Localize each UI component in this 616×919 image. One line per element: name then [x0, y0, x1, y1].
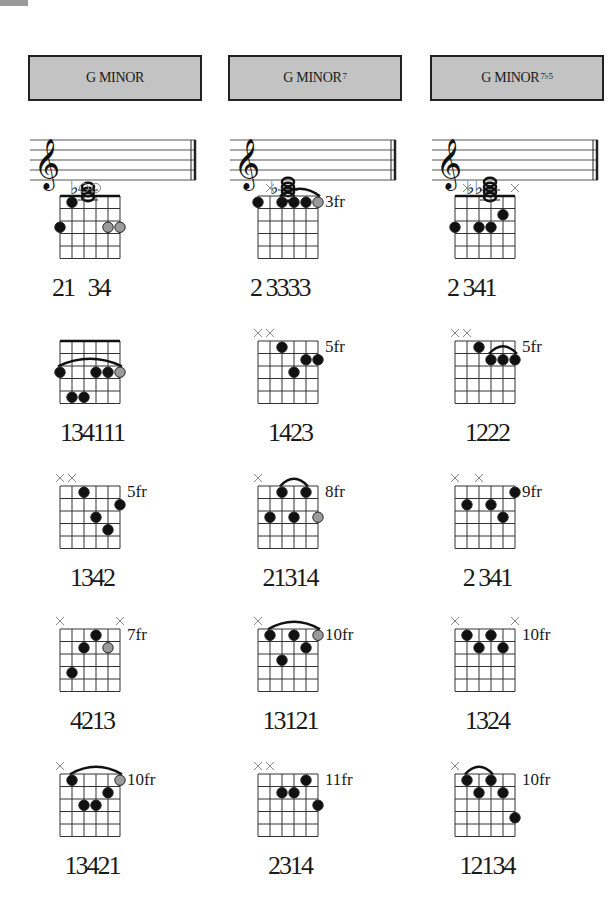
chord-diagram: 3fr2 3333: [228, 176, 358, 311]
finger-dot: [301, 775, 311, 785]
finger-dot: [253, 197, 263, 207]
fretboard-grid: [28, 321, 188, 421]
finger-dot: [313, 355, 323, 365]
finger-dot: [486, 775, 496, 785]
finger-dot: [486, 355, 496, 365]
finger-dot: [55, 222, 65, 232]
fret-position-label: 11fr: [325, 770, 353, 790]
open-string-icon: [92, 184, 101, 193]
muted-string-icon: [511, 617, 519, 625]
finger-dot: [498, 512, 508, 522]
chord-title-text: G MINOR: [283, 70, 341, 86]
finger-dot: [265, 630, 275, 640]
finger-dot: [450, 222, 460, 232]
finger-dot: [289, 630, 299, 640]
finger-dot: [289, 197, 299, 207]
finger-dot: [79, 392, 89, 402]
finger-dot: [462, 775, 472, 785]
muted-string-icon: [266, 184, 274, 192]
fingering-label: 21 34: [52, 273, 132, 303]
fretboard-grid: [28, 466, 188, 566]
chord-diagram: 11fr2314: [228, 754, 358, 889]
chord-title-text: G MINOR: [481, 70, 539, 86]
finger-dot: [91, 630, 101, 640]
fret-position-label: 5fr: [127, 482, 147, 502]
chord-diagram: 9fr2 341: [430, 466, 560, 601]
muted-string-icon: [463, 329, 471, 337]
corner-tab: [0, 0, 28, 6]
muted-string-icon: [475, 474, 483, 482]
chord-title-superscript: 7♭5: [540, 71, 552, 81]
finger-dot: [474, 788, 484, 798]
finger-dot: [498, 788, 508, 798]
root-note-dot: [115, 775, 125, 785]
finger-dot: [486, 222, 496, 232]
fret-position-label: 3fr: [325, 192, 345, 212]
fret-position-label: 5fr: [522, 337, 542, 357]
fingering-label: 13421: [52, 851, 132, 881]
chord-diagram: 2 341: [430, 176, 560, 311]
fingering-label: 2 341: [447, 563, 527, 593]
finger-dot: [289, 367, 299, 377]
finger-dot: [67, 668, 77, 678]
finger-dot: [265, 512, 275, 522]
finger-dot: [301, 643, 311, 653]
chord-diagram: 5fr1222: [430, 321, 560, 456]
chord-diagram: 10fr13121: [228, 609, 358, 744]
fingering-label: 1423: [250, 418, 330, 448]
finger-dot: [91, 800, 101, 810]
muted-string-icon: [451, 617, 459, 625]
finger-dot: [474, 643, 484, 653]
barre-arc: [268, 622, 320, 630]
finger-dot: [486, 630, 496, 640]
fretboard-grid: [228, 609, 388, 709]
chord-diagram: 21 34: [28, 176, 158, 311]
fretboard-grid: [430, 609, 590, 709]
root-note-dot: [103, 643, 113, 653]
finger-dot: [67, 197, 77, 207]
muted-string-icon: [56, 762, 64, 770]
muted-string-icon: [511, 184, 519, 192]
finger-dot: [498, 210, 508, 220]
fret-position-label: 10fr: [522, 625, 550, 645]
barre-arc: [58, 359, 122, 367]
chord-diagram: 134111: [28, 321, 158, 456]
finger-dot: [313, 800, 323, 810]
fretboard-grid: [28, 176, 188, 276]
chord-title: G MINOR7♭5: [430, 55, 604, 101]
finger-dot: [79, 643, 89, 653]
barre-arc: [70, 767, 122, 775]
finger-dot: [103, 367, 113, 377]
fret-position-label: 9fr: [522, 482, 542, 502]
fretboard-grid: [430, 321, 590, 421]
fretboard-grid: [28, 609, 188, 709]
fret-position-label: 10fr: [522, 770, 550, 790]
root-note-dot: [115, 222, 125, 232]
finger-dot: [510, 355, 520, 365]
fingering-label: 21314: [250, 563, 330, 593]
finger-dot: [115, 500, 125, 510]
chord-diagram: 10fr13421: [28, 754, 158, 889]
fretboard-grid: [228, 176, 388, 276]
fretboard-grid: [430, 176, 590, 276]
muted-string-icon: [266, 762, 274, 770]
fingering-label: 1324: [447, 706, 527, 736]
finger-dot: [498, 643, 508, 653]
muted-string-icon: [116, 617, 124, 625]
muted-string-icon: [451, 762, 459, 770]
chord-diagram: 5fr1423: [228, 321, 358, 456]
fretboard-grid: [430, 754, 590, 854]
fretboard-grid: [228, 466, 388, 566]
fretboard-grid: [228, 321, 388, 421]
finger-dot: [103, 525, 113, 535]
root-note-dot: [313, 197, 323, 207]
chord-diagram: 8fr21314: [228, 466, 358, 601]
finger-dot: [301, 355, 311, 365]
finger-dot: [498, 355, 508, 365]
muted-string-icon: [56, 474, 64, 482]
finger-dot: [462, 500, 472, 510]
fretboard-grid: [28, 754, 188, 854]
finger-dot: [474, 222, 484, 232]
finger-dot: [474, 342, 484, 352]
finger-dot: [486, 500, 496, 510]
